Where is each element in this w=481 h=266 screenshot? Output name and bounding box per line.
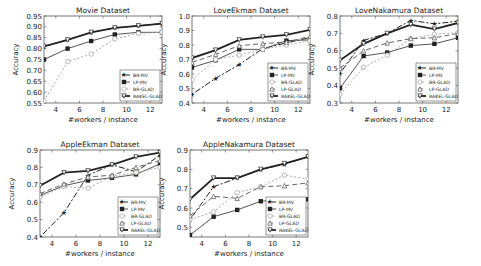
data-point-marker (65, 59, 69, 63)
data-point-marker (235, 190, 239, 194)
legend-entry-label: BR-MV (279, 200, 295, 205)
y-tick-label: 0.6 (179, 71, 191, 79)
data-point-marker (409, 43, 413, 47)
chart-title: AppleEkman Dataset (61, 140, 140, 149)
legend-entry-label: BR-MV (281, 66, 297, 71)
x-tick-label: 8 (98, 240, 102, 248)
y-tick-label: 0.3 (327, 100, 338, 108)
legend-entry-label: BR-MV (429, 66, 445, 71)
x-tick-label: 4 (50, 240, 55, 248)
x-tick-label: 4 (350, 106, 355, 114)
legend-entry-label: LP-MV (133, 80, 148, 85)
legend-entry-label: LP-GLAD (279, 221, 299, 226)
x-tick-label: 10 (418, 106, 427, 114)
chart-title: Movie Dataset (76, 6, 130, 15)
data-point-marker (211, 215, 215, 219)
data-point-marker: ★ (269, 64, 275, 72)
data-point-marker (361, 54, 365, 58)
x-tick-label: 6 (225, 106, 230, 114)
y-tick-label: 0.7 (27, 181, 38, 189)
data-point-marker (282, 173, 286, 177)
data-point-marker (432, 42, 436, 46)
y-tick-label: 1.0 (179, 13, 190, 21)
y-tick-label: 0.65 (26, 78, 42, 86)
x-tick-label: 10 (270, 106, 279, 114)
y-tick-label: 0.6 (27, 199, 39, 207)
chart-title: LoveEkman Dataset (213, 6, 288, 15)
data-point-marker (190, 65, 194, 69)
y-axis-label: Accuracy (12, 44, 20, 76)
data-point-marker (42, 99, 46, 103)
data-point-marker (120, 214, 124, 218)
x-axis-label: #workers / instance (65, 250, 135, 258)
data-point-marker (385, 53, 389, 57)
data-point-marker (268, 207, 272, 211)
y-tick-label: 0.55 (26, 100, 42, 108)
chart-panel-applenakamura-dataset: AppleNakamura Dataset0.50.60.70.80.94681… (150, 138, 328, 266)
data-point-marker (418, 73, 422, 77)
data-point-marker (261, 47, 265, 51)
data-point-marker (42, 57, 46, 61)
y-tick-label: 0.75 (26, 56, 42, 64)
x-tick-label: 6 (373, 106, 378, 114)
y-tick-label: 0.60 (26, 89, 42, 97)
data-point-marker (136, 31, 140, 35)
x-axis-label: #workers / instance (364, 116, 434, 124)
legend: ★BR-MVLP-MVBR-GLADLP-GLADRAKEL-GLAD (416, 63, 459, 101)
x-tick-label: 8 (101, 106, 105, 114)
chart-title: AppleNakamura Dataset (203, 140, 295, 149)
data-point-marker (270, 73, 274, 77)
y-tick-label: 0.9 (177, 147, 188, 155)
data-point-marker: ★ (236, 61, 242, 69)
legend-entry-label: LP-MV (131, 207, 146, 212)
y-tick-label: 0.7 (179, 56, 190, 64)
x-tick-label: 12 (292, 240, 301, 248)
y-axis-label: Accuracy (160, 44, 168, 76)
y-tick-label: 0.8 (179, 42, 190, 50)
data-point-marker (190, 78, 194, 82)
legend-entry-label: RAKEL-GLAD (279, 228, 309, 233)
data-point-marker (188, 233, 192, 237)
y-tick-label: 0.7 (177, 185, 188, 193)
y-tick-label: 0.80 (26, 45, 42, 53)
x-tick-label: 4 (200, 240, 205, 248)
data-point-marker (418, 80, 422, 84)
chart-panel-lovenakamura-dataset: LoveNakamura Dataset0.30.40.50.60.70.846… (300, 4, 478, 135)
x-tick-label: 12 (442, 106, 451, 114)
y-axis-label: Accuracy (8, 178, 16, 210)
x-axis-label: #workers / instance (214, 250, 284, 258)
x-tick-label: 8 (397, 106, 401, 114)
y-tick-label: 0.8 (327, 13, 338, 21)
y-tick-label: 0.5 (327, 65, 338, 73)
data-point-marker (65, 46, 69, 50)
legend-entry-label: BR-MV (131, 200, 147, 205)
data-point-marker: ★ (121, 71, 127, 79)
legend-entry-label: LP-GLAD (429, 87, 449, 92)
x-tick-label: 4 (54, 106, 59, 114)
data-point-marker (270, 80, 274, 84)
data-point-marker (259, 199, 263, 203)
data-point-marker (122, 80, 126, 84)
data-point-marker: ★ (61, 209, 67, 217)
y-tick-label: 0.9 (27, 147, 38, 155)
y-tick-label: 0.4 (27, 234, 39, 242)
data-point-marker (456, 36, 460, 40)
y-tick-label: 0.4 (327, 82, 339, 90)
y-tick-label: 0.6 (327, 47, 339, 55)
data-point-marker (338, 86, 342, 90)
legend-entry-label: LP-MV (429, 73, 444, 78)
data-point-marker (268, 214, 272, 218)
y-tick-label: 0.90 (26, 23, 42, 31)
x-tick-label: 10 (122, 106, 131, 114)
data-point-marker: ★ (417, 64, 423, 72)
x-tick-label: 10 (120, 240, 129, 248)
data-point-marker (113, 32, 117, 36)
data-point-marker (120, 207, 124, 211)
legend-entry-label: LP-MV (279, 207, 294, 212)
data-point-marker: ★ (210, 183, 216, 191)
x-tick-label: 6 (77, 106, 82, 114)
y-tick-label: 0.5 (177, 224, 188, 232)
data-point-marker (134, 170, 138, 174)
data-point-marker (211, 210, 215, 214)
x-tick-label: 4 (202, 106, 207, 114)
